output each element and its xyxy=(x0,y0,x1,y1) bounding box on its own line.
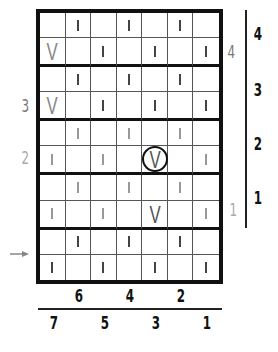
chart-cell xyxy=(91,67,117,92)
knit-stitch-icon xyxy=(179,236,181,247)
chart-cell xyxy=(168,92,194,121)
chart-cell: V xyxy=(40,38,66,67)
chart-cell xyxy=(142,175,168,200)
chart-cell xyxy=(40,255,66,280)
chart-cell xyxy=(66,121,92,146)
chart-cell xyxy=(66,175,92,200)
chart-cell xyxy=(91,121,117,146)
knit-stitch-icon xyxy=(205,208,207,219)
chart-cell xyxy=(40,230,66,255)
bottom-label-4: 4 xyxy=(126,286,134,306)
chart-cell xyxy=(142,38,168,67)
chart-cell xyxy=(117,38,143,67)
chart-cell xyxy=(168,146,194,175)
knit-stitch-icon xyxy=(77,74,79,85)
chart-cell xyxy=(142,255,168,280)
bottom-divider-line xyxy=(38,308,222,310)
knit-stitch-icon xyxy=(128,20,130,31)
knit-stitch-icon xyxy=(51,154,53,165)
chart-cell xyxy=(91,175,117,200)
knit-stitch-icon xyxy=(128,182,130,193)
knit-stitch-icon xyxy=(102,262,104,273)
chart-cell xyxy=(66,38,92,67)
chart-cell xyxy=(117,92,143,121)
chart-cell xyxy=(142,230,168,255)
chart-cell xyxy=(40,201,66,230)
chart-cell: V xyxy=(40,92,66,121)
chart-cell xyxy=(193,255,219,280)
bottom-label-2: 2 xyxy=(177,286,185,306)
chart-cell xyxy=(193,230,219,255)
chart-cell xyxy=(117,146,143,175)
right-bracket-line xyxy=(245,10,247,228)
knit-stitch-icon xyxy=(77,128,79,139)
right-outer-label-4: 4 xyxy=(254,24,262,44)
chart-cell xyxy=(142,92,168,121)
chart-cell xyxy=(117,201,143,230)
chart-cell xyxy=(91,255,117,280)
knitting-chart-grid: VVVV xyxy=(36,9,223,284)
knit-stitch-icon xyxy=(128,74,130,85)
chart-cell xyxy=(66,201,92,230)
knit-stitch-icon xyxy=(128,236,130,247)
chart-cell xyxy=(193,201,219,230)
left-label-3: 3 xyxy=(22,96,30,116)
chart-cell xyxy=(168,67,194,92)
chart-cell xyxy=(168,175,194,200)
chart-cell xyxy=(66,146,92,175)
chart-cell xyxy=(117,67,143,92)
chart-cell xyxy=(168,201,194,230)
chart-cell xyxy=(91,92,117,121)
knit-stitch-icon xyxy=(179,74,181,85)
left-label-2: 2 xyxy=(22,148,30,168)
chart-cell xyxy=(117,175,143,200)
chart-cell xyxy=(40,121,66,146)
arrow-right-icon xyxy=(10,250,30,258)
bottom-label-3: 3 xyxy=(152,313,160,333)
knit-stitch-icon xyxy=(179,128,181,139)
chart-cell xyxy=(168,230,194,255)
slip-stitch-icon: V xyxy=(149,203,160,227)
chart-cell xyxy=(91,201,117,230)
bottom-label-6: 6 xyxy=(75,286,83,306)
knit-stitch-icon xyxy=(77,182,79,193)
knit-stitch-icon xyxy=(102,46,104,57)
chart-cell: V xyxy=(142,201,168,230)
chart-cell xyxy=(117,13,143,38)
knit-stitch-icon xyxy=(205,46,207,57)
chart-cell xyxy=(193,13,219,38)
knit-stitch-icon xyxy=(205,154,207,165)
knit-stitch-icon xyxy=(77,20,79,31)
right-outer-label-3: 3 xyxy=(254,80,262,100)
chart-cell xyxy=(117,121,143,146)
chart-cell xyxy=(40,175,66,200)
slip-stitch-icon: V xyxy=(47,40,58,64)
chart-cell xyxy=(66,230,92,255)
chart-cell xyxy=(66,255,92,280)
chart-cell xyxy=(91,38,117,67)
chart-cell xyxy=(66,13,92,38)
knit-stitch-icon xyxy=(51,208,53,219)
chart-cell xyxy=(66,92,92,121)
knit-stitch-icon xyxy=(128,128,130,139)
knit-stitch-icon xyxy=(154,262,156,273)
chart-cell xyxy=(193,146,219,175)
chart-cell xyxy=(91,230,117,255)
chart-cell xyxy=(66,67,92,92)
bottom-label-5: 5 xyxy=(101,313,109,333)
chart-cell xyxy=(193,67,219,92)
chart-cell xyxy=(91,146,117,175)
right-inner-label-4: 4 xyxy=(228,42,236,62)
right-outer-label-1: 1 xyxy=(254,188,262,208)
highlight-circle-icon xyxy=(142,146,168,172)
chart-cell xyxy=(40,13,66,38)
knit-stitch-icon xyxy=(102,154,104,165)
chart-cell xyxy=(117,255,143,280)
chart-cell xyxy=(40,67,66,92)
bottom-label-1: 1 xyxy=(203,313,211,333)
knit-stitch-icon xyxy=(179,182,181,193)
right-inner-label-1: 1 xyxy=(230,200,238,220)
chart-cell xyxy=(168,121,194,146)
slip-stitch-icon: V xyxy=(47,94,58,118)
chart-cell: V xyxy=(142,146,168,175)
